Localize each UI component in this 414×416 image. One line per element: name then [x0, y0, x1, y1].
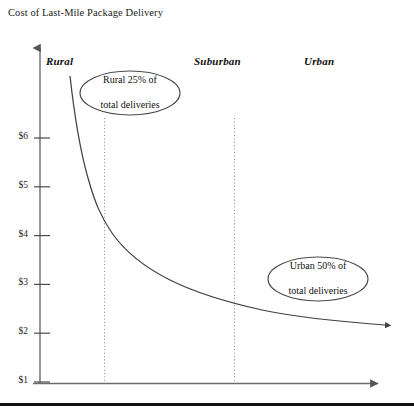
callout-shapes — [80, 71, 368, 301]
rural-callout-ellipse — [80, 71, 180, 115]
y-tick-label-1: $1 — [6, 375, 28, 385]
region-dividers — [105, 118, 235, 383]
region-label-urban: Urban — [304, 55, 334, 67]
urban-callout-ellipse — [268, 257, 368, 301]
region-label-suburban: Suburban — [194, 55, 241, 67]
y-tick-label-4: $4 — [6, 229, 28, 239]
y-tick-label-3: $3 — [6, 277, 28, 287]
y-axis — [34, 48, 50, 384]
y-tick-label-6: $6 — [6, 131, 28, 141]
y-tick-label-5: $5 — [6, 180, 28, 190]
bottom-divider-rule — [0, 403, 414, 406]
region-label-rural: Rural — [46, 55, 73, 67]
chart-figure: Cost of Last-Mile Package Delivery — [0, 0, 414, 416]
y-tick-label-2: $2 — [6, 326, 28, 336]
